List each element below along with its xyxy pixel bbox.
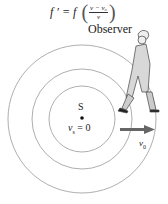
source-label: S <box>78 101 84 112</box>
velocity-arrow-icon <box>120 125 155 134</box>
wavefront-diagram <box>0 0 168 204</box>
source-velocity-label: vs = 0 <box>68 122 90 135</box>
observer-velocity-label: v0 <box>139 138 146 150</box>
source-dot <box>80 116 84 120</box>
observer-figure-icon <box>118 30 159 113</box>
